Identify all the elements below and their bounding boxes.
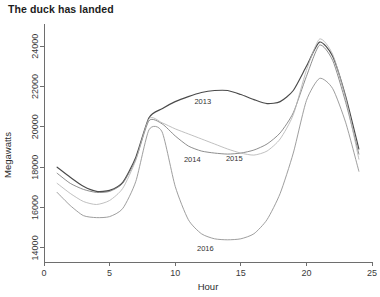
series-layer [57, 39, 359, 240]
y-axis-title: Megawatts [2, 132, 13, 178]
y-tick-label: 14000 [30, 235, 40, 260]
y-tick-label: 20000 [30, 114, 40, 139]
x-tick-label: 0 [41, 268, 46, 278]
y-tick-label: 24000 [30, 34, 40, 59]
chart-plot-area: 0510152025140001600018000200002200024000… [0, 0, 380, 297]
series-line-2015 [57, 39, 359, 205]
x-axis-title: Hour [198, 281, 219, 292]
series-label-2014: 2014 [184, 155, 201, 164]
chart-title: The duck has landed [8, 3, 114, 15]
chart-figure: The duck has landed 05101520251400016000… [0, 0, 380, 297]
x-tick-label: 10 [170, 268, 180, 278]
series-label-2015: 2015 [226, 154, 243, 163]
series-line-2014 [57, 45, 359, 193]
series-label-2016: 2016 [197, 244, 214, 253]
x-tick-label: 15 [236, 268, 246, 278]
x-tick-label: 5 [107, 268, 112, 278]
y-tick-label: 22000 [30, 74, 40, 99]
series-line-2013 [57, 42, 359, 192]
axis-layer: 0510152025140001600018000200002200024000 [30, 24, 377, 278]
series-label-2013: 2013 [194, 97, 211, 106]
y-tick-label: 16000 [30, 195, 40, 220]
series-label-layer: 2013201420152016 [184, 97, 243, 253]
x-tick-label: 25 [367, 268, 377, 278]
x-tick-label: 20 [301, 268, 311, 278]
y-tick-label: 18000 [30, 155, 40, 180]
